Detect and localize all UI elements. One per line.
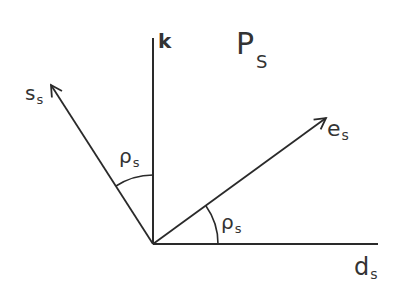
angle-arc-upper — [116, 175, 153, 186]
axis-k-label: k — [158, 29, 172, 53]
d-axis-label: ds — [354, 253, 378, 282]
diagram-title: PS — [236, 26, 268, 72]
e-vector-label: es — [327, 116, 349, 143]
vector-diagram: k PS ss es ds ρs ρs — [0, 0, 400, 289]
angle-arc-lower — [206, 206, 218, 244]
s-vector-label: ss — [25, 81, 43, 107]
angle-label-upper: ρs — [119, 144, 140, 170]
angle-label-lower: ρs — [221, 210, 242, 236]
